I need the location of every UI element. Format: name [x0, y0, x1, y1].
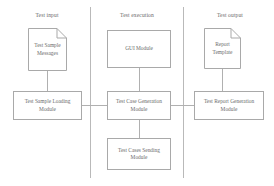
node-label: Test Report Generation Module [197, 98, 261, 112]
swimlane-divider-2 [183, 7, 184, 178]
connector-samples-to-loading [47, 70, 48, 92]
connector-gui-to-generation [139, 68, 140, 92]
node-label: Test Cases Sending Module [110, 147, 168, 161]
swimlane-divider-1 [90, 7, 91, 178]
node-gui-module[interactable]: GUI Module [107, 30, 171, 68]
node-test-sample-loading-module[interactable]: Test Sample Loading Module [13, 91, 82, 120]
connector-generation-to-sending [139, 119, 140, 139]
node-test-case-generation-module[interactable]: Test Case Generation Module [107, 91, 171, 120]
node-test-cases-sending-module[interactable]: Test Cases Sending Module [107, 138, 171, 170]
node-label: Test Sample Messages [30, 42, 65, 57]
node-label: Report Template [206, 41, 239, 56]
node-test-report-generation-module[interactable]: Test Report Generation Module [194, 91, 264, 120]
node-label: Test Case Generation Module [110, 98, 168, 112]
lane-title-test-output: Test output [200, 12, 260, 19]
diagram-canvas: Test input Test execution Test output Te… [0, 0, 274, 186]
lane-label: Test output [217, 12, 243, 18]
node-label: Test Sample Loading Module [16, 98, 79, 112]
lane-title-test-execution: Test execution [103, 12, 171, 19]
lane-label: Test execution [120, 12, 154, 18]
lane-title-test-input: Test input [14, 12, 80, 19]
connector-template-to-report [222, 68, 223, 92]
lane-label: Test input [35, 12, 58, 18]
node-test-sample-messages[interactable]: Test Sample Messages [28, 28, 67, 71]
node-report-template[interactable]: Report Template [204, 28, 241, 69]
node-label: GUI Module [125, 45, 153, 52]
